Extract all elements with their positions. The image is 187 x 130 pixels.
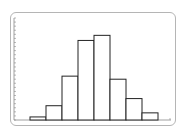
histogram-bar [94, 35, 110, 120]
histogram-bar [46, 106, 62, 120]
histogram-bar [78, 40, 94, 120]
histogram-bar [142, 113, 158, 120]
histogram-bar [30, 117, 46, 120]
histogram-bar [110, 79, 126, 120]
histogram-chart [0, 0, 187, 130]
histogram-bar [126, 99, 142, 120]
histogram-bar [62, 76, 78, 120]
